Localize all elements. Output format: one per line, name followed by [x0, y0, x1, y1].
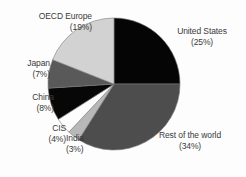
pie-label-japan: Japan (7%) [2, 58, 50, 79]
pie-label-united-states-name: United States [163, 26, 241, 37]
pie-label-japan-name: Japan [2, 58, 50, 69]
pie-label-china-name: China [6, 92, 54, 103]
pie-label-oecd-europe-value: (19%) [6, 22, 92, 33]
pie-label-china: China (8%) [6, 92, 54, 113]
pie-label-united-states: United States (25%) [163, 26, 241, 47]
pie-label-rest-of-the-world-value: (34%) [143, 141, 237, 152]
pie-chart-figure: OECD Europe (19%) Japan (7%) China (8%) … [0, 0, 246, 177]
pie-label-united-states-value: (25%) [163, 37, 241, 48]
pie-label-rest-of-the-world-name: Rest of the world [143, 130, 237, 141]
pie-label-india: India (3%) [66, 133, 108, 154]
pie-label-oecd-europe: OECD Europe (19%) [6, 11, 92, 32]
pie-label-india-value: (3%) [66, 144, 108, 155]
pie-label-japan-value: (7%) [2, 69, 50, 80]
pie-label-china-value: (8%) [6, 103, 54, 114]
pie-label-cis-value: (4%) [20, 134, 66, 145]
pie-label-oecd-europe-name: OECD Europe [6, 11, 92, 22]
pie-label-cis: CIS (4%) [20, 123, 66, 144]
pie-label-india-name: India [66, 133, 108, 144]
pie-label-rest-of-the-world: Rest of the world (34%) [143, 130, 237, 151]
pie-label-cis-name: CIS [20, 123, 66, 134]
